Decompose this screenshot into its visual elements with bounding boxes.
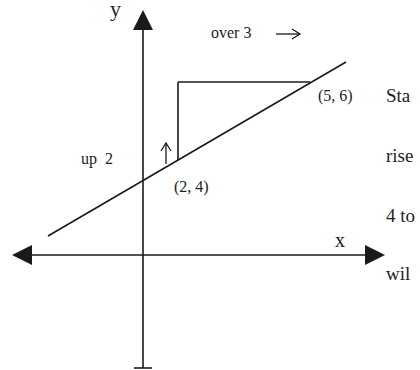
graphed-line bbox=[48, 62, 346, 236]
rise-arrow-icon bbox=[161, 143, 171, 164]
side-text-line-3: 4 to bbox=[386, 206, 415, 225]
rise-label: up 2 bbox=[81, 151, 113, 167]
x-axis bbox=[12, 245, 385, 265]
side-text-line-4: wil bbox=[386, 264, 410, 283]
point-label-5-6: (5, 6) bbox=[318, 88, 353, 104]
y-axis-arrow-icon bbox=[133, 10, 153, 30]
coordinate-plane-diagram bbox=[0, 0, 420, 370]
y-axis bbox=[133, 10, 153, 368]
x-axis-right-arrow-icon bbox=[365, 245, 385, 265]
y-axis-label: y bbox=[110, 0, 121, 20]
run-label: over 3 bbox=[211, 25, 251, 41]
point-label-2-4: (2, 4) bbox=[174, 179, 209, 195]
x-axis-label: x bbox=[335, 230, 345, 250]
side-text-line-1: Sta bbox=[386, 86, 410, 105]
run-arrow-icon bbox=[276, 29, 300, 39]
side-text-line-2: rise bbox=[386, 146, 413, 165]
x-axis-left-arrow-icon bbox=[12, 245, 32, 265]
